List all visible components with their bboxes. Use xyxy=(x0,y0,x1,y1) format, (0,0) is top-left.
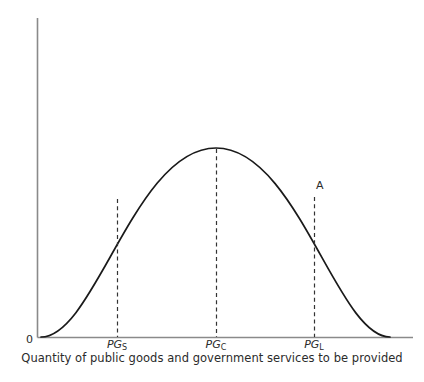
origin-label: 0 xyxy=(26,334,33,345)
x-tick-label-pg-c: PGC xyxy=(206,338,227,352)
x-axis-title: Quantity of public goods and government … xyxy=(0,353,424,365)
voter-distribution-curve xyxy=(41,148,390,337)
chart-canvas xyxy=(0,0,424,382)
voter-distribution-figure: 0 A Number of voters PGS PGC PGL Quantit… xyxy=(0,0,424,382)
x-tick-label-pg-s: PGS xyxy=(107,338,127,352)
x-tick-base-pg-l: PG xyxy=(304,338,319,351)
annotation-label-a: A xyxy=(316,180,324,191)
x-tick-label-pg-l: PGL xyxy=(304,338,324,352)
x-tick-base-pg-c: PG xyxy=(206,338,221,351)
x-tick-base-pg-s: PG xyxy=(107,338,122,351)
